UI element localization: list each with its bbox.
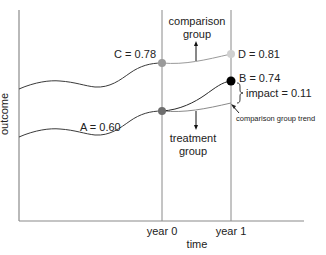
comparison-group-label-line1: comparison <box>169 15 226 27</box>
impact-brace <box>237 83 243 103</box>
x-tick-year-1: year 1 <box>216 225 247 237</box>
point-a <box>158 107 166 115</box>
label-b: B = 0.74 <box>239 72 280 84</box>
comparison-group-arrowhead <box>194 41 198 46</box>
y-axis-label: outcome <box>0 93 10 135</box>
comparison-group-label-line2: group <box>183 28 211 40</box>
comparison-group-pre-curve <box>19 63 162 89</box>
treatment-group-post-line <box>162 81 231 111</box>
point-b <box>227 77 236 86</box>
comparison-trend-label: comparison group trend <box>236 114 315 123</box>
label-c: C = 0.78 <box>114 48 156 60</box>
x-tick-year-0: year 0 <box>147 225 178 237</box>
point-c <box>158 59 166 67</box>
x-axis-label: time <box>187 238 208 250</box>
point-d <box>227 50 235 58</box>
treatment-group-label-line1: treatment <box>170 132 216 144</box>
diagram-canvas: C = 0.78 A = 0.60 D = 0.81 B = 0.74 impa… <box>0 0 326 255</box>
treatment-group-label-line2: group <box>179 145 207 157</box>
label-a: A = 0.60 <box>80 121 121 133</box>
impact-label: impact = 0.11 <box>246 87 312 99</box>
comparison-trend-line <box>162 103 231 112</box>
treatment-group-arrowhead <box>194 125 198 130</box>
label-d: D = 0.81 <box>238 48 280 60</box>
